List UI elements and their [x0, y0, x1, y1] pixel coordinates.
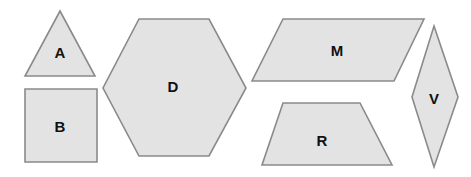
shape-a-label: A — [55, 44, 66, 61]
shape-b[interactable]: B — [25, 89, 97, 162]
shape-m-label: M — [331, 42, 344, 59]
shape-d-label: D — [168, 78, 179, 95]
shape-m[interactable]: M — [252, 19, 424, 81]
shape-r-label: R — [317, 132, 328, 149]
shape-v-label: V — [429, 90, 439, 107]
shape-b-label: B — [55, 118, 66, 135]
shape-d[interactable]: D — [103, 19, 246, 156]
shapes-figure: ABDMRV — [0, 0, 471, 177]
shape-r[interactable]: R — [262, 103, 392, 165]
shapes-canvas: ABDMRV — [0, 0, 471, 177]
shape-a[interactable]: A — [25, 11, 95, 76]
shape-v[interactable]: V — [412, 26, 458, 167]
